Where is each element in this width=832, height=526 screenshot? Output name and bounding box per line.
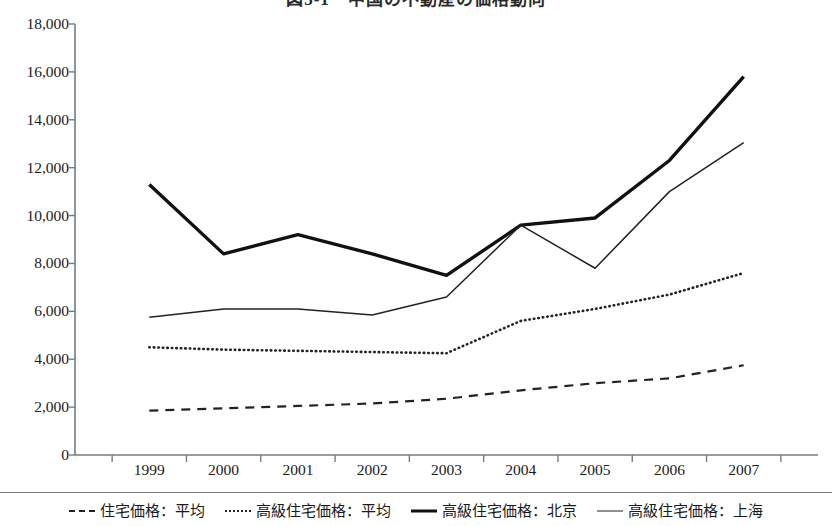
chart-figure: 図3-1 中国の不動産の価格動向 18,00016,00014,00012,00… xyxy=(0,0,832,526)
legend-label: 高級住宅価格：上海 xyxy=(628,503,763,519)
legend-label: 高級住宅価格：北京 xyxy=(442,503,577,519)
x-tick-label: 2000 xyxy=(184,461,264,479)
x-tick-label: 2005 xyxy=(555,461,635,479)
legend-line-swatch-icon xyxy=(597,505,623,517)
legend-label: 高級住宅価格：平均 xyxy=(256,503,391,519)
legend-item[interactable]: 高級住宅価格：上海 xyxy=(597,503,763,519)
x-tick-label: 2002 xyxy=(332,461,412,479)
legend-item[interactable]: 高級住宅価格：平均 xyxy=(225,503,391,519)
legend-item[interactable]: 高級住宅価格：北京 xyxy=(411,503,577,519)
chart-legend: 住宅価格：平均高級住宅価格：平均高級住宅価格：北京高級住宅価格：上海 xyxy=(0,492,832,526)
legend-label: 住宅価格：平均 xyxy=(100,503,205,519)
legend-item[interactable]: 住宅価格：平均 xyxy=(69,503,205,519)
x-tick-label: 1999 xyxy=(109,461,189,479)
x-tick-label: 2001 xyxy=(258,461,338,479)
legend-line-swatch-icon xyxy=(225,505,251,517)
legend-line-swatch-icon xyxy=(69,505,95,517)
x-axis-labels: 199920002001200220032004200520062007 xyxy=(0,0,832,526)
x-tick-label: 2004 xyxy=(481,461,561,479)
legend-line-swatch-icon xyxy=(411,505,437,517)
x-tick-label: 2003 xyxy=(407,461,487,479)
x-tick-label: 2006 xyxy=(629,461,709,479)
x-tick-label: 2007 xyxy=(704,461,784,479)
